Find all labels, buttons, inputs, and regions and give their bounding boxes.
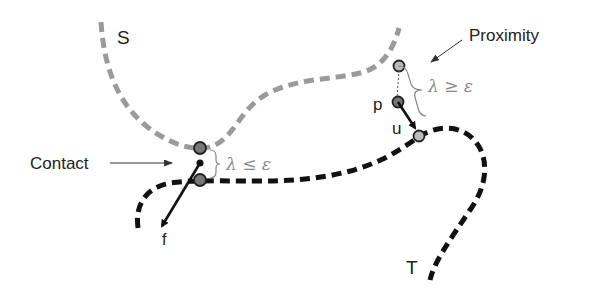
proximity-point-t (414, 131, 425, 142)
displacement-label: u (392, 119, 401, 138)
proximity-condition: λ ≥ ε (427, 76, 473, 96)
curve-t (137, 128, 484, 280)
point-p-label: p (373, 95, 382, 114)
curve-s-label: S (117, 27, 130, 48)
contact-label: Contact (30, 154, 89, 173)
proximity-dotted-link (397, 70, 399, 98)
force-vector-arrow (162, 163, 200, 226)
proximity-label: Proximity (469, 26, 539, 45)
curve-t-label: T (406, 257, 418, 278)
contact-condition: λ ≤ ε (225, 154, 271, 174)
contact-proximity-diagram: S T Contact Proximity f p u λ ≤ ε λ ≥ ε (0, 0, 591, 291)
contact-brace (210, 150, 220, 178)
curve-s (101, 22, 399, 148)
proximity-pointer-arrow (431, 40, 462, 62)
contact-point-t (194, 174, 206, 186)
force-label: f (162, 231, 167, 248)
contact-point-s (194, 142, 206, 154)
